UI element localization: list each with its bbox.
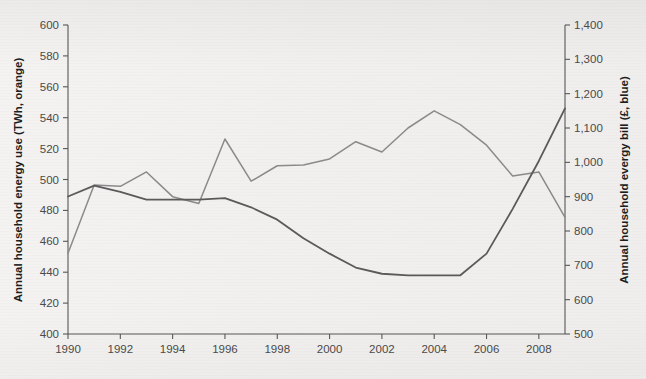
plot-area (68, 25, 565, 334)
right-tick-label: 1,200 (574, 88, 603, 100)
right-tick-label: 1,400 (574, 19, 603, 31)
x-tick-label: 1992 (108, 343, 134, 355)
left-tick-label: 520 (40, 143, 59, 155)
x-tick-label: 2008 (526, 343, 552, 355)
right-axis-tick-labels: 5006007008009001,0001,1001,2001,3001,400 (574, 19, 603, 340)
right-tick-label: 500 (574, 328, 593, 340)
left-tick-label: 500 (40, 174, 59, 186)
left-axis-ticks (63, 25, 68, 334)
right-tick-label: 1,000 (574, 156, 603, 168)
x-axis-ticks (68, 334, 539, 339)
x-tick-label: 2002 (369, 343, 395, 355)
right-tick-label: 1,300 (574, 53, 603, 65)
left-tick-label: 460 (40, 235, 59, 247)
left-tick-label: 420 (40, 297, 59, 309)
right-tick-label: 700 (574, 259, 593, 271)
x-tick-label: 2000 (317, 343, 343, 355)
line-chart: 400420440460480500520540560580600 500600… (0, 0, 646, 379)
left-tick-label: 440 (40, 266, 59, 278)
right-tick-label: 800 (574, 225, 593, 237)
x-tick-label: 1994 (160, 343, 186, 355)
left-axis-title: Annual household energy use (TWh, orange… (12, 57, 24, 302)
left-tick-label: 580 (40, 50, 59, 62)
right-tick-label: 600 (574, 294, 593, 306)
right-axis-ticks (565, 25, 570, 334)
right-tick-label: 1,100 (574, 122, 603, 134)
x-tick-label: 2004 (421, 343, 447, 355)
x-tick-label: 1998 (264, 343, 290, 355)
right-tick-label: 900 (574, 191, 593, 203)
left-tick-label: 600 (40, 19, 59, 31)
x-axis-tick-labels: 1990199219941996199820002002200420062008 (55, 343, 551, 355)
chart-svg: 400420440460480500520540560580600 500600… (0, 0, 646, 379)
left-tick-label: 560 (40, 81, 59, 93)
series-line-energy-use (68, 108, 565, 275)
left-tick-label: 400 (40, 328, 59, 340)
x-tick-label: 1996 (212, 343, 238, 355)
series-line-energy-bill (68, 111, 565, 253)
left-tick-label: 540 (40, 112, 59, 124)
left-axis-tick-labels: 400420440460480500520540560580600 (40, 19, 59, 340)
right-axis-title: Annual household evergy bill (£, blue) (618, 76, 630, 284)
left-tick-label: 480 (40, 204, 59, 216)
x-tick-label: 1990 (55, 343, 81, 355)
x-tick-label: 2006 (474, 343, 500, 355)
